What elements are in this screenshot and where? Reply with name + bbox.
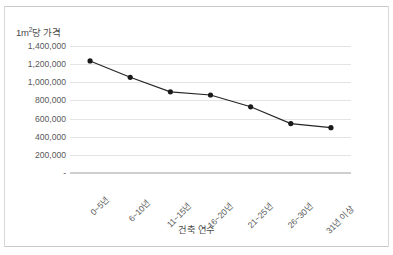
plot-area: [70, 46, 351, 173]
y-axis-title: 1m2당 가격: [16, 25, 61, 39]
y-axis-tick-label: 600,000: [2, 114, 66, 124]
data-point-marker: [328, 125, 333, 130]
y-axis-tick-label: 1,400,000: [2, 41, 66, 51]
data-point-marker: [248, 104, 253, 109]
y-axis-title-prefix: 1m: [16, 27, 29, 38]
y-axis-tick-label: 1,200,000: [2, 59, 66, 69]
figure-border-top: [4, 6, 389, 7]
y-axis-title-suffix: 당 가격: [32, 27, 61, 38]
y-axis-tick-label: 800,000: [2, 95, 66, 105]
x-axis-tick-labels: 0~5년6~10년11~15년16~20년21~25년26~30년31년 이상: [70, 174, 351, 220]
y-axis-tick-labels: 1,400,0001,200,0001,000,000800,000600,00…: [0, 46, 66, 173]
x-axis-title: 건축 연수: [0, 222, 393, 236]
x-axis-tick-label: 0~5년: [87, 193, 111, 217]
x-axis-tick-label: 6~10년: [125, 197, 152, 224]
data-point-marker: [128, 75, 133, 80]
figure-border-bottom: [4, 246, 389, 247]
y-axis-tick-label: 200,000: [2, 150, 66, 160]
data-point-marker: [168, 89, 173, 94]
series-line-chart: [70, 46, 351, 173]
y-axis-tick-label: -: [2, 168, 66, 178]
data-point-marker: [87, 58, 92, 63]
y-axis-tick-label: 400,000: [2, 132, 66, 142]
data-point-marker: [288, 121, 293, 126]
chart-figure: 1m2당 가격 1,400,0001,200,0001,000,000800,0…: [0, 0, 393, 255]
figure-border-right: [388, 6, 389, 247]
data-point-marker: [208, 92, 213, 97]
y-axis-tick-label: 1,000,000: [2, 77, 66, 87]
